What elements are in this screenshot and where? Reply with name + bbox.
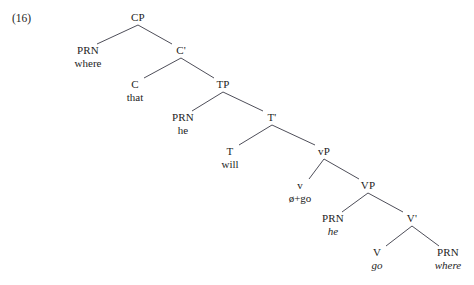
tree-edge-tp-to-prn2 <box>192 92 223 111</box>
node-terminal-label: where <box>435 260 461 271</box>
example-number-label: (16) <box>12 12 31 24</box>
tree-edge-vbar-to-v <box>386 226 412 246</box>
node-category-label: TP <box>216 79 229 90</box>
node-category-label: v <box>289 180 312 191</box>
node-terminal-label: will <box>221 159 238 170</box>
tree-node-vp: VP <box>361 180 375 191</box>
tree-edges-layer <box>0 0 474 285</box>
tree-edge-cbar-to-c <box>144 58 181 78</box>
tree-node-cp: CP <box>131 12 145 23</box>
tree-edge-vp-to-vp <box>324 159 359 179</box>
node-category-label: VP <box>361 180 375 191</box>
tree-edge-cp-to-prn1 <box>97 25 138 44</box>
tree-edge-vp-to-v <box>309 159 324 179</box>
node-category-label: C <box>127 79 144 90</box>
node-category-label: V <box>372 247 383 258</box>
tree-node-v: Vgo <box>372 247 383 271</box>
tree-edge-tbar-to-vp <box>272 125 315 145</box>
node-terminal-label: go <box>372 260 383 271</box>
tree-node-tp: TP <box>216 79 229 90</box>
tree-node-vp: vP <box>318 146 330 157</box>
node-terminal-label: ø+go <box>289 193 312 204</box>
node-category-label: V' <box>407 213 417 224</box>
tree-node-cbar: C' <box>176 45 186 56</box>
tree-edge-vp-to-prn3 <box>342 193 368 212</box>
node-terminal-label: he <box>172 125 194 136</box>
node-terminal-label: he <box>322 226 344 237</box>
node-category-label: CP <box>131 12 145 23</box>
tree-node-prn1: PRNwhere <box>75 45 102 69</box>
node-category-label: T' <box>267 112 276 123</box>
tree-edge-cp-to-cbar <box>138 25 172 44</box>
syntax-tree-figure: (16) CPPRNwhereC'CthatTPPRNheT'TwillvPvø… <box>0 0 474 285</box>
tree-edge-tbar-to-t <box>239 125 272 145</box>
node-category-label: PRN <box>172 112 194 123</box>
tree-node-v: vø+go <box>289 180 312 204</box>
tree-node-tbar: T' <box>267 112 276 123</box>
node-category-label: PRN <box>322 213 344 224</box>
node-terminal-label: where <box>75 58 102 69</box>
node-category-label: PRN <box>75 45 102 56</box>
tree-node-c: Cthat <box>127 79 144 103</box>
tree-edge-vbar-to-prn4 <box>412 226 439 246</box>
node-category-label: T <box>221 146 238 157</box>
node-category-label: vP <box>318 146 330 157</box>
tree-node-prn3: PRNhe <box>322 213 344 237</box>
tree-node-t: Twill <box>221 146 238 170</box>
node-category-label: PRN <box>435 247 461 258</box>
tree-node-prn4: PRNwhere <box>435 247 461 271</box>
tree-edge-tp-to-tbar <box>223 92 263 111</box>
tree-node-vbar: V' <box>407 213 417 224</box>
tree-node-prn2: PRNhe <box>172 112 194 136</box>
tree-edge-cbar-to-tp <box>181 58 214 78</box>
node-category-label: C' <box>176 45 186 56</box>
node-terminal-label: that <box>127 92 144 103</box>
tree-edge-vp-to-vbar <box>368 193 403 212</box>
